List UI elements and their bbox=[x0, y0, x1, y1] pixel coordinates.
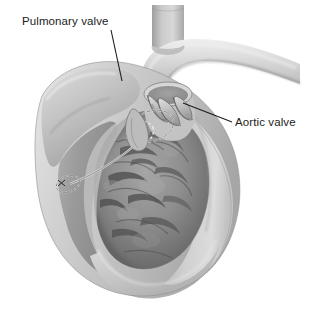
heart-illustration-figure: Pulmonary valve Aortic valve bbox=[0, 0, 309, 311]
label-pulmonary-valve: Pulmonary valve bbox=[22, 15, 109, 27]
heart-diagram-svg bbox=[0, 0, 309, 311]
papillary-muscle bbox=[139, 177, 165, 195]
label-aortic-valve: Aortic valve bbox=[235, 116, 296, 128]
papillary-muscle bbox=[117, 207, 139, 221]
endocardial-mound bbox=[132, 232, 160, 248]
